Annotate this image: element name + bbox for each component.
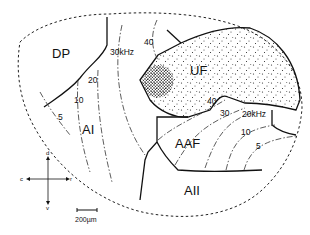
aaf-isofreq-10 bbox=[226, 125, 275, 170]
ai-aaf-boundary bbox=[140, 117, 188, 200]
compass-dorsal: d bbox=[46, 150, 49, 156]
ai-isofreq-20 bbox=[98, 70, 112, 182]
region-label-dp: DP bbox=[52, 46, 70, 61]
compass-ventral: v bbox=[46, 205, 49, 211]
uf-top-branch bbox=[167, 30, 181, 43]
compass-caudal: c bbox=[20, 176, 23, 182]
auditory-cortex-map: DP AI UF AAF AII 5 10 20 30kHz 40 40 30 … bbox=[0, 0, 310, 235]
region-label-uf: UF bbox=[190, 63, 207, 78]
ai-freq-40: 40 bbox=[144, 37, 154, 47]
ai-freq-5: 5 bbox=[58, 112, 63, 122]
ai-isofreq-5 bbox=[40, 92, 70, 135]
region-label-ai: AI bbox=[82, 122, 94, 137]
compass-rostral: r bbox=[70, 176, 72, 182]
region-label-aii: AII bbox=[184, 183, 200, 198]
orientation-compass: d v c r bbox=[20, 150, 72, 211]
aaf-freq-40: 40 bbox=[207, 96, 217, 106]
ai-freq-20: 20 bbox=[88, 75, 98, 85]
aaf-right-boundary bbox=[272, 110, 296, 135]
aaf-freq-5: 5 bbox=[256, 141, 261, 151]
aaf-isofreq-5 bbox=[244, 136, 296, 170]
ai-isofreq-30 bbox=[118, 25, 145, 155]
aaf-freq-20khz: 20kHz bbox=[242, 109, 266, 119]
scale-bar-label: 200µm bbox=[75, 216, 97, 224]
aaf-freq-30: 30 bbox=[220, 108, 230, 118]
scale-bar: 200µm bbox=[75, 208, 97, 224]
region-label-aaf: AAF bbox=[175, 136, 200, 151]
ai-freq-10: 10 bbox=[74, 95, 84, 105]
aaf-freq-10: 10 bbox=[241, 127, 251, 137]
ai-freq-30khz: 30kHz bbox=[110, 47, 134, 57]
aaf-isofreq-20 bbox=[205, 112, 255, 168]
